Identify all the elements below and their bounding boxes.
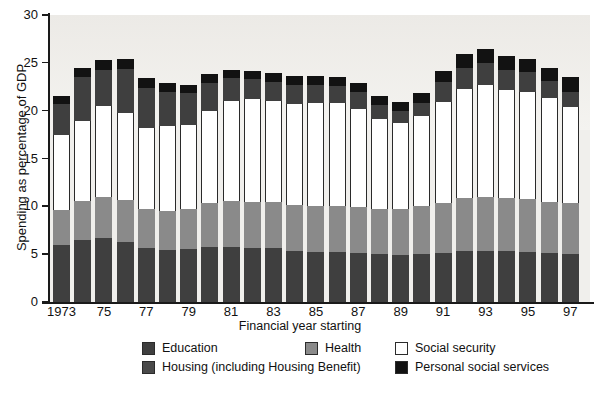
bar-segment-hou (519, 72, 536, 91)
x-tick-label-95: 95 (508, 305, 548, 319)
bar-segment-hou (138, 88, 155, 128)
bar-segment-soc (244, 99, 261, 201)
bar-segment-hou (456, 68, 473, 89)
bar-1995 (519, 59, 536, 302)
bar-segment-pss (435, 71, 452, 82)
bar-1990 (413, 93, 430, 302)
bar-1986 (329, 77, 346, 302)
bar-segment-hou (371, 105, 388, 119)
bar-segment-edu (265, 248, 282, 302)
bar-segment-soc (498, 90, 515, 198)
legend-label-soc: Social security (415, 341, 496, 355)
bar-segment-pss (265, 73, 282, 82)
bar-segment-hea (74, 201, 91, 240)
bar-1974 (74, 68, 91, 302)
legend-swatch-edu-icon (142, 342, 155, 355)
bar-segment-soc (286, 104, 303, 205)
bar-1979 (180, 85, 197, 302)
bar-segment-pss (159, 83, 176, 92)
bar-segment-edu (498, 251, 515, 302)
bar-segment-pss (371, 96, 388, 105)
x-tick-label-89: 89 (381, 305, 421, 319)
bar-segment-pss (392, 102, 409, 111)
bar-segment-edu (307, 252, 324, 302)
bar-segment-soc (95, 106, 112, 197)
bar-segment-hou (180, 93, 197, 125)
bar-segment-hea (265, 202, 282, 249)
legend-item-soc[interactable]: Social security (395, 341, 496, 355)
bar-segment-soc (159, 126, 176, 211)
bar-1983 (265, 73, 282, 302)
chart-root: 051015202530 197375777981838587899193959… (0, 0, 600, 395)
legend-item-hea[interactable]: Health (305, 341, 361, 355)
bar-segment-hea (519, 199, 536, 253)
bar-segment-edu (95, 238, 112, 302)
bar-1984 (286, 76, 303, 302)
bar-segment-hou (307, 85, 324, 103)
x-tick-label-93: 93 (466, 305, 506, 319)
bar-segment-pss (223, 70, 240, 79)
bar-segment-hou (435, 82, 452, 102)
bar-segment-pss (456, 54, 473, 67)
bar-segment-hea (223, 201, 240, 248)
bar-segment-pss (519, 59, 536, 72)
y-tick-0 (42, 301, 49, 303)
bar-segment-edu (201, 247, 218, 302)
bar-segment-soc (180, 125, 197, 209)
bar-1989 (392, 102, 409, 302)
bar-1975 (95, 60, 112, 302)
bar-segment-edu (350, 253, 367, 302)
bar-segment-soc (223, 101, 240, 200)
bar-segment-hea (329, 206, 346, 252)
bar-segment-hou (562, 92, 579, 107)
bar-segment-edu (519, 252, 536, 302)
legend-swatch-pss-icon (395, 361, 408, 374)
bar-segment-pss (117, 59, 134, 69)
bar-segment-soc (541, 98, 558, 201)
bar-segment-hea (201, 203, 218, 247)
bar-segment-pss (138, 78, 155, 88)
x-tick-label-85: 85 (296, 305, 336, 319)
bar-segment-hea (244, 202, 261, 249)
bar-1996 (541, 68, 558, 302)
bar-1993 (477, 49, 494, 302)
bar-segment-edu (541, 253, 558, 302)
bar-segment-hou (159, 92, 176, 126)
bar-segment-edu (180, 249, 197, 302)
bar-segment-soc (265, 101, 282, 201)
bar-segment-pss (562, 77, 579, 91)
y-axis-title: Spending as percentage of GDP (14, 43, 29, 273)
bar-segment-hou (392, 111, 409, 123)
bar-1988 (371, 96, 388, 302)
bar-1997 (562, 77, 579, 302)
bar-segment-hou (350, 92, 367, 109)
bar-segment-soc (307, 103, 324, 206)
bar-segment-hea (350, 207, 367, 253)
bar-segment-pss (95, 60, 112, 70)
bar-segment-hou (117, 69, 134, 113)
bar-segment-edu (138, 248, 155, 302)
legend-item-hou[interactable]: Housing (including Housing Benefit) (142, 360, 361, 374)
legend-item-edu[interactable]: Education (142, 341, 218, 355)
legend-item-pss[interactable]: Personal social services (395, 360, 549, 374)
bar-segment-soc (456, 89, 473, 198)
legend-label-pss: Personal social services (415, 360, 549, 374)
bar-1994 (498, 56, 515, 302)
bar-segment-hou (201, 83, 218, 111)
y-tick-20 (42, 110, 49, 112)
bar-segment-hou (265, 82, 282, 101)
y-tick-label-0: 0 (12, 295, 38, 308)
y-tick-label-30: 30 (12, 8, 38, 21)
bar-segment-hou (74, 77, 91, 121)
bar-segment-edu (74, 240, 91, 302)
bar-segment-edu (117, 242, 134, 302)
x-tick-label-83: 83 (254, 305, 294, 319)
bar-segment-hea (562, 203, 579, 254)
x-tick-label-81: 81 (211, 305, 251, 319)
bar-segment-hea (477, 197, 494, 252)
bar-segment-hea (180, 209, 197, 249)
bar-segment-hea (541, 202, 558, 254)
bar-segment-pss (74, 68, 91, 78)
legend-label-hou: Housing (including Housing Benefit) (162, 360, 361, 374)
legend-swatch-soc-icon (395, 342, 408, 355)
